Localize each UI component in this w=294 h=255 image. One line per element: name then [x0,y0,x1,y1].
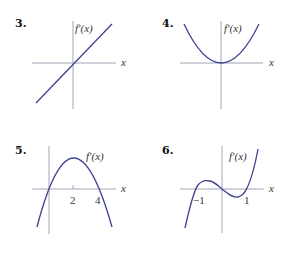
graph-3: 3. f′(x) x [15,17,126,109]
problem-number-5: 5. [15,144,26,157]
curve-label: f′(x) [86,150,104,163]
graph-5: 5. f′(x) x 2 4 [15,144,126,234]
curve-label: f′(x) [224,22,242,35]
graph-4: 4. f′(x) x [162,17,274,109]
x-axis-label: x [268,182,274,194]
tick-label-4: 4 [95,194,101,206]
x-axis-label: x [268,56,274,68]
graph-6: 6. f′(x) x −1 1 [162,144,274,233]
x-axis-label: x [120,182,126,194]
derivative-curve [37,158,112,227]
problem-number-3: 3. [15,17,26,30]
curve-label: f′(x) [75,22,93,35]
tick-label-1: 1 [244,194,250,206]
problem-number-4: 4. [162,17,173,30]
curve-label: f′(x) [229,150,247,163]
problem-number-6: 6. [162,144,173,157]
figure-canvas: 3. f′(x) x 4. f′(x) x 5. f′(x) x 2 4 6. … [0,0,294,255]
x-axis-label: x [120,56,126,68]
tick-label-2: 2 [70,194,76,206]
tick-label-minus-1: −1 [193,194,205,206]
